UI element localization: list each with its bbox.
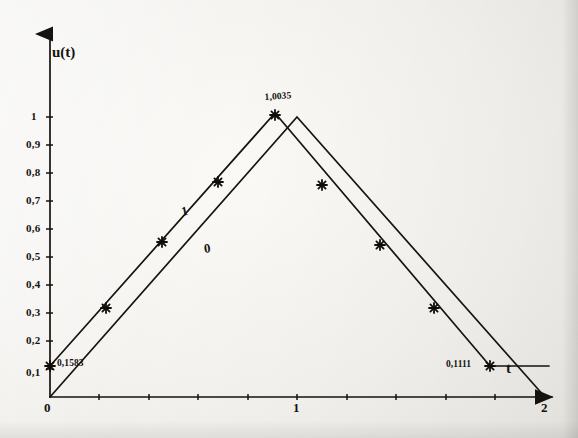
data-point-marker <box>485 361 495 371</box>
annotation-peak-value: 1,0035 <box>264 90 291 102</box>
series-1-curve <box>50 113 490 366</box>
y-tick-label-1: 1 <box>31 110 37 122</box>
y-tick-label-0-7: 0,7 <box>26 194 40 206</box>
series-0-curve <box>50 117 545 397</box>
y-tick-label-0-8: 0,8 <box>26 166 40 178</box>
data-point-marker <box>270 110 280 120</box>
x-tick-label-2: 2 <box>541 400 548 416</box>
y-tick-label-0-5: 0,5 <box>26 250 40 262</box>
data-point-marker <box>213 177 223 187</box>
y-tick-label-0-4: 0,4 <box>26 278 40 290</box>
y-tick-label-0-3: 0,3 <box>26 306 40 318</box>
data-point-marker <box>45 361 55 371</box>
y-tick-label-0-2: 0,2 <box>26 334 40 346</box>
plot-drawing <box>0 0 578 438</box>
data-point-marker <box>101 303 111 313</box>
y-axis-label: u(t) <box>52 44 75 61</box>
data-point-marker <box>317 180 327 190</box>
data-point-marker <box>157 237 167 247</box>
y-tick-label-0-9: 0,9 <box>26 138 40 150</box>
annotation-start-value: 0,1583 <box>57 358 84 368</box>
data-point-marker <box>375 240 385 250</box>
y-tick-label-0-1: 0,1 <box>26 366 40 378</box>
x-axis <box>50 394 552 400</box>
x-tick-label-1: 1 <box>293 400 300 416</box>
x-axis-label: t <box>506 360 511 377</box>
data-point-marker <box>429 303 439 313</box>
x-tick-label-0: 0 <box>44 400 51 416</box>
figure-canvas: u(t) t 1 0,9 0,8 0,7 0,6 0,5 0,4 0,3 0,2… <box>0 0 578 438</box>
series-1-markers <box>45 110 495 371</box>
y-axis <box>46 34 53 397</box>
y-tick-label-0-6: 0,6 <box>26 222 40 234</box>
annotation-end-value: 0,1111 <box>446 359 471 369</box>
